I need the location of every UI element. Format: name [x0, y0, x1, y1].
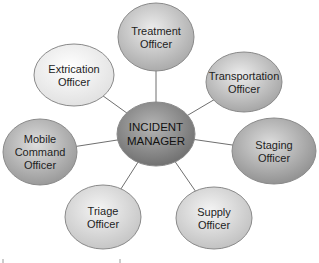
mobile-command-officer-label-line: Mobile	[24, 133, 56, 145]
mobile-command-officer-node: MobileCommandOfficer	[3, 119, 77, 185]
transportation-officer-node: TransportationOfficer	[206, 52, 282, 112]
treatment-officer-label-line: Treatment	[131, 25, 181, 37]
triage-officer-label-line: Triage	[88, 205, 119, 217]
extrication-officer-label-line: Extrication	[48, 63, 99, 75]
extrication-officer-node: ExtricationOfficer	[34, 44, 114, 106]
transportation-officer-label-line: Officer	[228, 83, 261, 95]
incident-command-diagram: TreatmentOfficerTransportationOfficerSta…	[0, 0, 319, 263]
extrication-officer-label-line: Officer	[58, 76, 91, 88]
incident-manager-label-line: MANAGER	[127, 135, 185, 147]
incident-manager-node: INCIDENTMANAGER	[117, 102, 195, 166]
staging-officer-label-line: Officer	[258, 152, 291, 164]
supply-officer-label-line: Supply	[197, 206, 231, 218]
triage-officer-node: TriageOfficer	[65, 185, 141, 249]
bottom-frame-ticks	[3, 259, 120, 263]
transportation-officer-label-line: Transportation	[209, 70, 280, 82]
incident-manager-label-line: INCIDENT	[129, 121, 183, 133]
staging-officer-label-line: Staging	[255, 139, 292, 151]
mobile-command-officer-label-line: Command	[15, 146, 66, 158]
treatment-officer-label-line: Officer	[140, 38, 173, 50]
mobile-command-officer-label-line: Officer	[24, 159, 57, 171]
supply-officer-label-line: Officer	[198, 219, 231, 231]
triage-officer-label-line: Officer	[87, 218, 120, 230]
incident-manager-ellipse	[117, 102, 195, 166]
staging-officer-node: StagingOfficer	[232, 118, 316, 184]
treatment-officer-node: TreatmentOfficer	[118, 3, 194, 71]
incident-manager-node: INCIDENTMANAGER	[117, 102, 195, 166]
supply-officer-node: SupplyOfficer	[176, 187, 252, 249]
